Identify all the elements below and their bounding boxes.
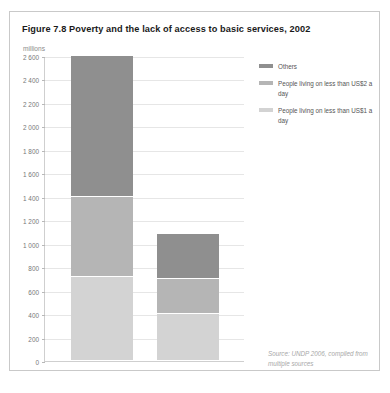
bar-segment [71, 277, 133, 361]
bar-sanitation: Sanitation [71, 56, 133, 361]
legend-label: People living on less than US$1 a day [278, 106, 379, 125]
y-axis-tick-label: 1 800 [23, 147, 39, 154]
legend-swatch-icon [259, 64, 273, 68]
legend-item: Others [259, 62, 379, 71]
legend-swatch-icon [259, 81, 273, 85]
bar-segment [157, 234, 219, 279]
y-axis-tick-label: 2 600 [23, 54, 39, 61]
y-axis-tick-mark [42, 57, 45, 58]
bar-segment [157, 279, 219, 314]
y-axis-tick-mark [42, 339, 45, 340]
y-axis-tick-label: 2 400 [23, 77, 39, 84]
legend-item: People living on less than US$1 a day [259, 106, 379, 125]
y-axis-tick-label: 1 600 [23, 171, 39, 178]
chart-plot-wrapper: 02004006008001 0001 2001 4001 6001 8002 … [44, 57, 244, 362]
y-axis-tick-mark [42, 221, 45, 222]
source-note: Source: UNDP 2006, compiled from multipl… [268, 349, 380, 369]
chart-legend: OthersPeople living on less than US$2 a … [259, 62, 379, 133]
y-axis-tick-mark [42, 245, 45, 246]
legend-swatch-icon [259, 108, 273, 112]
figure-frame: Figure 7.8 Poverty and the lack of acces… [9, 11, 380, 371]
y-axis-tick-label: 1 000 [23, 241, 39, 248]
bar-segment [71, 56, 133, 197]
y-axis-tick-label: 2 200 [23, 100, 39, 107]
legend-label: Others [278, 62, 297, 71]
y-axis-tick-label: 1 400 [23, 194, 39, 201]
y-axis-tick-label: 200 [28, 335, 39, 342]
y-axis-tick-mark [42, 268, 45, 269]
figure-title: Figure 7.8 Poverty and the lack of acces… [22, 24, 310, 34]
y-axis-unit-label: millions [23, 45, 45, 52]
bar-segment [71, 197, 133, 277]
y-axis-tick-label: 0 [35, 359, 39, 366]
bar-water: Water [157, 234, 219, 361]
y-axis-tick-label: 400 [28, 312, 39, 319]
y-axis-tick-mark [42, 151, 45, 152]
legend-item: People living on less than US$2 a day [259, 79, 379, 98]
bar-segment [157, 314, 219, 361]
legend-label: People living on less than US$2 a day [278, 79, 379, 98]
y-axis-tick-label: 2 000 [23, 124, 39, 131]
y-axis-tick-mark [42, 292, 45, 293]
y-axis-tick-mark [42, 174, 45, 175]
y-axis-tick-label: 800 [28, 265, 39, 272]
y-axis-tick-mark [42, 362, 45, 363]
chart-plot-area: 02004006008001 0001 2001 4001 6001 8002 … [44, 57, 244, 362]
y-axis-tick-mark [42, 315, 45, 316]
y-axis-tick-mark [42, 198, 45, 199]
y-axis-tick-label: 600 [28, 288, 39, 295]
y-axis-tick-mark [42, 127, 45, 128]
y-axis-tick-mark [42, 104, 45, 105]
y-axis-tick-label: 1 200 [23, 218, 39, 225]
y-axis-tick-mark [42, 80, 45, 81]
